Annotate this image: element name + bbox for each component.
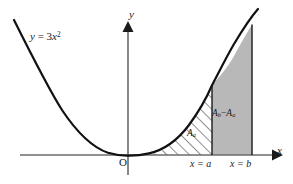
- curve-eq-operator: = 3: [35, 30, 52, 42]
- parabola-area-diagram: [0, 0, 293, 184]
- area-difference-label: Ab−Aa: [212, 108, 235, 118]
- x-equals-a-value: = a: [194, 158, 211, 169]
- y-axis-arrowhead: [123, 21, 134, 32]
- area-a-subscript-2: a: [232, 111, 235, 118]
- figure-canvas: y = 3x2 y x O Aa Ab−Aa x = a x = b: [0, 0, 293, 184]
- shaded-region-ab: [212, 25, 252, 156]
- area-a-subscript: a: [193, 131, 196, 138]
- x-equals-b-label: x = b: [230, 158, 251, 169]
- origin-label: O: [119, 156, 127, 168]
- x-equals-b-value: = b: [234, 158, 251, 169]
- x-axis-label: x: [277, 144, 282, 156]
- y-axis-label: y: [129, 8, 134, 20]
- x-equals-a-label: x = a: [190, 158, 211, 169]
- curve-eq-exponent: 2: [57, 31, 61, 39]
- area-a-label: Aa: [187, 128, 196, 138]
- hatched-region-a: [120, 78, 220, 160]
- curve-equation-label: y = 3x2: [30, 30, 61, 42]
